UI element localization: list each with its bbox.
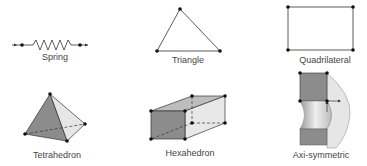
node-icon [286, 48, 290, 52]
node-icon [183, 109, 187, 113]
node-icon [83, 122, 87, 126]
node-icon [298, 71, 302, 75]
hexahedron-element [149, 94, 227, 141]
quadrilateral-element [286, 5, 355, 52]
hexahedron-label: Hexahedron [165, 149, 214, 158]
node-icon [190, 121, 194, 125]
arrow-icon [85, 44, 88, 47]
node-icon [190, 94, 194, 98]
node-icon [78, 43, 82, 47]
finite-element-types-diagram [0, 0, 367, 166]
node-icon [48, 92, 52, 96]
node-icon [286, 5, 290, 9]
tetrahedron-element [23, 92, 87, 143]
quadrilateral-label: Quadrilateral [299, 56, 351, 65]
node-icon [223, 94, 227, 98]
node-icon [223, 121, 227, 125]
tetrahedron-label: Tetrahedron [33, 151, 81, 160]
node-icon [351, 48, 355, 52]
node-icon [218, 49, 222, 53]
node-icon [149, 109, 153, 113]
node-icon [351, 5, 355, 9]
spring-label: Spring [42, 53, 68, 62]
node-icon [23, 132, 27, 136]
node-icon [183, 137, 187, 141]
spring-element [12, 40, 88, 50]
node-icon [20, 43, 24, 47]
node-icon [178, 7, 182, 11]
node-icon [325, 71, 329, 75]
triangle-element [155, 7, 222, 53]
node-icon [155, 49, 159, 53]
node-icon [65, 139, 69, 143]
node-icon [325, 99, 329, 103]
axisymmetric-label: Axi-symmetric [293, 151, 350, 160]
node-icon [149, 137, 153, 141]
triangle-label: Triangle [172, 56, 204, 65]
axisymmetric-element [298, 71, 350, 148]
arrow-icon [14, 44, 17, 47]
node-icon [298, 99, 302, 103]
